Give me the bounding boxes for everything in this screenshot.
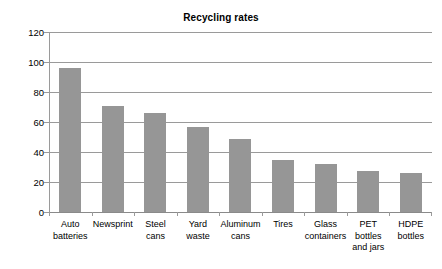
x-category-label-line: cans bbox=[134, 231, 177, 243]
bar[interactable] bbox=[144, 113, 166, 212]
y-tick-label: 40 bbox=[4, 148, 44, 157]
x-category-label: Glasscontainers bbox=[304, 219, 347, 242]
bar[interactable] bbox=[357, 171, 379, 212]
bar[interactable] bbox=[59, 68, 81, 212]
x-category-label-line: Steel bbox=[134, 219, 177, 231]
x-tick-mark bbox=[134, 212, 135, 216]
bar-slot bbox=[347, 32, 390, 212]
x-category-label: Yardwaste bbox=[177, 219, 220, 242]
x-category-label-line: bottles bbox=[389, 231, 432, 243]
x-category-label-line: Newsprint bbox=[92, 219, 135, 231]
x-category-label-line: cans bbox=[219, 231, 262, 243]
bar[interactable] bbox=[187, 127, 209, 212]
x-category-label-line: PET bbox=[347, 219, 390, 231]
x-category-label-line: containers bbox=[304, 231, 347, 243]
x-category-label-line: HDPE bbox=[389, 219, 432, 231]
y-tick-label: 0 bbox=[4, 208, 44, 217]
x-tick-mark bbox=[389, 212, 390, 216]
y-tick-label: 120 bbox=[4, 28, 44, 37]
bar[interactable] bbox=[272, 160, 294, 212]
x-category-label: Aluminumcans bbox=[219, 219, 262, 242]
bar[interactable] bbox=[102, 106, 124, 213]
x-category-label-line: batteries bbox=[49, 231, 92, 243]
y-tick-label: 60 bbox=[4, 118, 44, 127]
x-category-label: Tires bbox=[262, 219, 305, 231]
x-tick-mark bbox=[92, 212, 93, 216]
bar-slot bbox=[92, 32, 135, 212]
bar[interactable] bbox=[315, 164, 337, 212]
x-axis-tick-marks bbox=[49, 212, 432, 217]
bar-slot bbox=[389, 32, 432, 212]
x-category-label-line: Aluminum bbox=[219, 219, 262, 231]
bar-slot bbox=[49, 32, 92, 212]
x-category-label: HDPEbottles bbox=[389, 219, 432, 242]
y-tick-label: 100 bbox=[4, 58, 44, 67]
chart-title: Recycling rates bbox=[0, 12, 442, 23]
bar-slot bbox=[177, 32, 220, 212]
x-category-label: Newsprint bbox=[92, 219, 135, 231]
x-category-label-line: bottles bbox=[347, 231, 390, 243]
x-category-label-line: Auto bbox=[49, 219, 92, 231]
bar[interactable] bbox=[229, 139, 251, 212]
x-category-label: Steelcans bbox=[134, 219, 177, 242]
x-tick-mark bbox=[304, 212, 305, 216]
y-tick-label: 80 bbox=[4, 88, 44, 97]
bar-slot bbox=[304, 32, 347, 212]
y-tick-label: 20 bbox=[4, 178, 44, 187]
x-axis-category-labels: AutobatteriesNewsprintSteelcansYardwaste… bbox=[49, 219, 432, 265]
x-category-label: PETbottlesand jars bbox=[347, 219, 390, 254]
x-tick-mark bbox=[177, 212, 178, 216]
x-tick-mark bbox=[347, 212, 348, 216]
recycling-rates-bar-chart: Recycling rates 020406080100120 Autobatt… bbox=[0, 0, 442, 269]
bar-slot bbox=[134, 32, 177, 212]
y-axis-tick-labels: 020406080100120 bbox=[0, 32, 44, 213]
bar-slot bbox=[262, 32, 305, 212]
x-category-label-line: Yard bbox=[177, 219, 220, 231]
x-category-label-line: and jars bbox=[347, 242, 390, 254]
x-tick-mark bbox=[262, 212, 263, 216]
plot-area bbox=[49, 32, 432, 213]
x-category-label-line: waste bbox=[177, 231, 220, 243]
x-category-label-line: Glass bbox=[304, 219, 347, 231]
x-tick-mark bbox=[49, 212, 50, 216]
x-tick-mark bbox=[431, 212, 432, 216]
x-category-label: Autobatteries bbox=[49, 219, 92, 242]
bar-slot bbox=[219, 32, 262, 212]
x-category-label-line: Tires bbox=[262, 219, 305, 231]
x-tick-mark bbox=[219, 212, 220, 216]
bar[interactable] bbox=[400, 173, 422, 212]
bar-series bbox=[49, 32, 432, 213]
